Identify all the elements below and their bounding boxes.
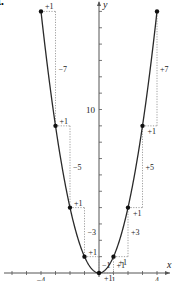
data-point xyxy=(82,254,86,258)
data-point xyxy=(155,9,159,13)
part-label: a. xyxy=(0,0,4,8)
data-point xyxy=(97,271,101,275)
rise-label: −7 xyxy=(59,65,68,74)
data-point xyxy=(53,124,57,128)
rise-label: +3 xyxy=(131,228,140,237)
data-point xyxy=(39,9,43,13)
run-label: +1 xyxy=(147,127,156,136)
run-label: +1 xyxy=(104,274,113,281)
parabola-figure: a. x−414y10+1−7+1−5+1−3+1−1+1+1+1+3+1+5+… xyxy=(0,0,176,281)
data-point xyxy=(68,205,72,209)
x-tick-label: 4 xyxy=(155,276,159,281)
y-axis-arrow-icon xyxy=(97,1,101,6)
run-label: +1 xyxy=(74,199,83,208)
data-point xyxy=(111,254,115,258)
rise-label: −3 xyxy=(88,228,97,237)
x-axis-arrow-icon xyxy=(165,271,170,275)
rise-label: +5 xyxy=(146,163,155,172)
run-label: +1 xyxy=(45,2,54,11)
run-label: +1 xyxy=(59,117,68,126)
y-axis-label: y xyxy=(102,0,108,10)
x-axis-label: x xyxy=(166,259,172,270)
rise-label: −5 xyxy=(73,163,82,172)
parabola-plot: x−414y10+1−7+1−5+1−3+1−1+1+1+1+3+1+5+1+7 xyxy=(0,0,176,281)
run-label: +1 xyxy=(118,258,127,267)
run-label: +1 xyxy=(88,248,97,257)
data-point xyxy=(126,205,130,209)
data-point xyxy=(140,124,144,128)
y-tick-label: 10 xyxy=(86,105,96,115)
x-tick-label: −4 xyxy=(37,276,46,281)
run-label: +1 xyxy=(133,209,142,218)
rise-label: +7 xyxy=(160,65,169,74)
